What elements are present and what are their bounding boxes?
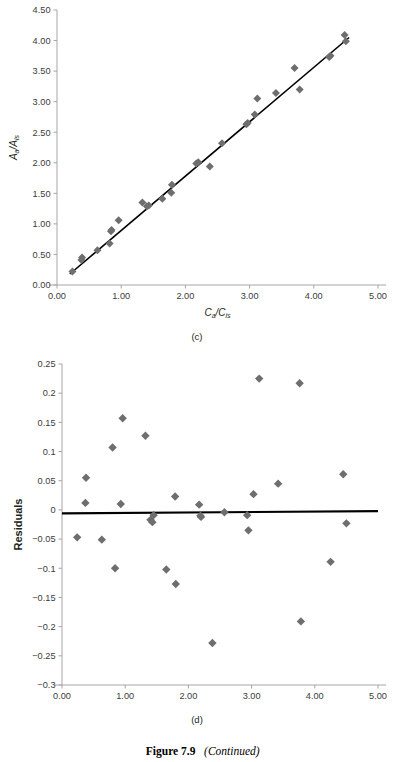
data-point bbox=[339, 470, 347, 478]
y-tick-label: 4.00 bbox=[33, 36, 51, 46]
data-point bbox=[118, 414, 126, 422]
y-tick-label: −0.1 bbox=[37, 564, 55, 574]
data-point bbox=[291, 64, 299, 72]
regression-line bbox=[62, 511, 378, 513]
data-point bbox=[172, 580, 180, 588]
data-point bbox=[141, 432, 149, 440]
x-tick-label: 3.00 bbox=[243, 691, 261, 701]
y-tick-label: 0.15 bbox=[38, 418, 56, 428]
data-point bbox=[296, 85, 304, 93]
y-tick-label: 3.50 bbox=[33, 66, 51, 76]
x-tick-label: 4.00 bbox=[306, 691, 324, 701]
y-tick-label: −0.25 bbox=[32, 651, 55, 661]
y-tick-label: −0.2 bbox=[37, 622, 55, 632]
data-point bbox=[295, 379, 303, 387]
y-tick-label: 3.00 bbox=[33, 97, 51, 107]
data-point bbox=[255, 374, 263, 382]
data-point bbox=[158, 195, 166, 203]
data-point bbox=[108, 443, 116, 451]
data-point bbox=[253, 95, 261, 103]
data-point bbox=[73, 533, 81, 541]
y-axis-title: Aa/Ais bbox=[8, 134, 20, 161]
x-tick-label: 0.00 bbox=[48, 291, 66, 301]
regression-line bbox=[70, 38, 349, 275]
x-axis-title: Ca/Cis bbox=[204, 307, 231, 318]
residuals-scatter-plot: 0.250.20.150.10.050−0.05−0.1−0.15−0.2−0.… bbox=[0, 352, 394, 712]
figure-caption: Figure 7.9 (Continued) bbox=[0, 733, 394, 762]
data-point bbox=[115, 216, 123, 224]
y-tick-label: −0.3 bbox=[37, 680, 55, 690]
data-point bbox=[326, 558, 334, 566]
y-tick-label: 1.00 bbox=[33, 219, 51, 229]
y-tick-label: 2.50 bbox=[33, 128, 51, 138]
x-tick-label: 1.00 bbox=[116, 691, 134, 701]
x-tick-label: 5.00 bbox=[369, 691, 387, 701]
data-point bbox=[195, 500, 203, 508]
figure-caption-gap bbox=[195, 745, 204, 757]
x-tick-label: 5.00 bbox=[369, 291, 387, 301]
y-tick-label: 0.1 bbox=[43, 447, 56, 457]
data-point bbox=[251, 111, 259, 119]
data-point bbox=[111, 564, 119, 572]
data-point bbox=[81, 499, 89, 507]
panel-d-label: (d) bbox=[0, 714, 394, 725]
data-point bbox=[220, 508, 228, 516]
y-tick-label: 1.50 bbox=[33, 189, 51, 199]
x-tick-label: 1.00 bbox=[112, 291, 130, 301]
data-point bbox=[168, 181, 176, 189]
chart-panel-c: 0.000.501.001.502.002.503.003.504.004.50… bbox=[0, 0, 394, 318]
data-point bbox=[342, 519, 350, 527]
data-point bbox=[98, 535, 106, 543]
data-point bbox=[206, 162, 214, 170]
x-tick-label: 0.00 bbox=[53, 691, 71, 701]
data-point bbox=[106, 239, 114, 247]
y-tick-label: 0.00 bbox=[33, 280, 51, 290]
data-point bbox=[162, 565, 170, 573]
y-tick-label: 0.05 bbox=[38, 476, 56, 486]
data-point bbox=[274, 479, 282, 487]
y-tick-label: 0.25 bbox=[38, 359, 56, 369]
data-point bbox=[272, 89, 280, 97]
y-tick-label: −0.05 bbox=[32, 534, 55, 544]
data-point bbox=[208, 639, 216, 647]
y-tick-label: 0.50 bbox=[33, 250, 51, 260]
chart-panel-d: 0.250.20.150.10.050−0.05−0.1−0.15−0.2−0.… bbox=[0, 352, 394, 712]
data-point bbox=[82, 474, 90, 482]
figure-caption-continued: (Continued) bbox=[204, 745, 260, 757]
data-point bbox=[218, 139, 226, 147]
y-tick-label: −0.15 bbox=[32, 593, 55, 603]
data-point bbox=[249, 490, 257, 498]
calibration-scatter-plot: 0.000.501.001.502.002.503.003.504.004.50… bbox=[0, 0, 394, 318]
x-tick-label: 3.00 bbox=[241, 291, 259, 301]
data-point bbox=[117, 500, 125, 508]
y-tick-label: 0 bbox=[50, 505, 55, 515]
data-point bbox=[297, 617, 305, 625]
x-tick-label: 4.00 bbox=[305, 291, 323, 301]
panel-c-label: (c) bbox=[0, 331, 394, 342]
x-tick-label: 2.00 bbox=[176, 291, 194, 301]
y-tick-label: 4.50 bbox=[33, 5, 51, 15]
y-tick-label: 0.2 bbox=[43, 388, 56, 398]
data-point bbox=[341, 31, 349, 39]
y-tick-label: 2.00 bbox=[33, 158, 51, 168]
data-point bbox=[244, 526, 252, 534]
figure-caption-number: Figure 7.9 bbox=[146, 745, 196, 757]
x-tick-label: 2.00 bbox=[179, 691, 197, 701]
data-point bbox=[171, 492, 179, 500]
y-axis-title: Residuals bbox=[12, 499, 24, 551]
